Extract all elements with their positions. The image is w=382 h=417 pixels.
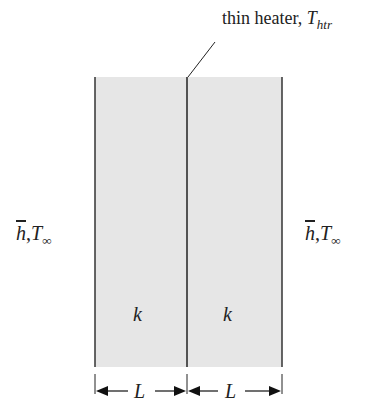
left-fluid-label: h,T∞ [16,222,51,245]
heater-label: thin heater, Thtr [222,8,332,29]
slab-region [95,77,282,367]
right-length-label: L [225,380,236,403]
right-conductivity-label: k [223,303,232,326]
composite-wall-diagram [0,0,382,417]
left-length-label: L [134,380,145,403]
left-conductivity-label: k [133,303,142,326]
right-fluid-label: h,T∞ [305,222,340,245]
heater-leader-line [188,42,215,77]
